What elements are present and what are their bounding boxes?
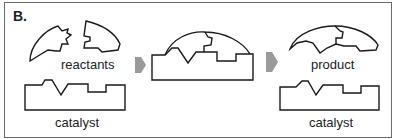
reactant-piece-a — [30, 26, 71, 61]
product-label: product — [311, 57, 354, 72]
catalyst-left — [25, 80, 125, 110]
complex-substrate-seam — [204, 32, 212, 52]
product — [290, 26, 378, 53]
product-seam — [335, 26, 343, 44]
reactant-piece-b — [84, 21, 120, 52]
arrow-2 — [266, 52, 278, 72]
reactants-label: reactants — [61, 57, 114, 72]
catalyst-left-label: catalyst — [55, 115, 99, 130]
arrow-1 — [135, 57, 146, 73]
complex-catalyst — [152, 48, 253, 80]
catalyst-right-label: catalyst — [309, 115, 353, 130]
catalyst-right — [280, 81, 379, 110]
